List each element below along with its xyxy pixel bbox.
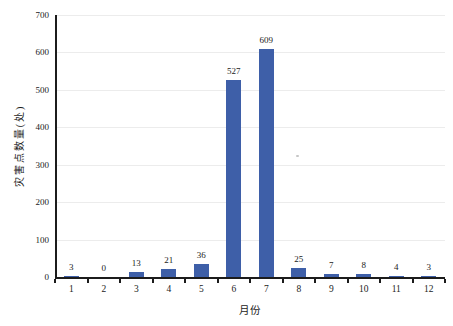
x-tick-mark (379, 279, 381, 283)
x-tick-mark (87, 279, 89, 283)
bar-value-label-month-5: 36 (197, 250, 206, 261)
x-tick-label-month-4: 4 (166, 284, 171, 295)
bar-value-label-month-7: 609 (260, 35, 274, 46)
x-tick-mark (119, 279, 121, 283)
x-tick-mark (249, 279, 251, 283)
y-axis-title: 灾害点数量(处) (11, 105, 26, 188)
bar-value-label-month-6: 527 (227, 66, 241, 77)
gridline-500 (57, 90, 445, 91)
bar-value-label-month-3: 13 (132, 258, 141, 269)
x-tick-mark (282, 279, 284, 283)
bar-month-9 (324, 274, 339, 277)
x-tick-label-month-5: 5 (199, 284, 204, 295)
x-tick-label-month-11: 11 (392, 284, 401, 295)
bar-month-8 (291, 268, 306, 277)
y-tick-label-600: 600 (17, 48, 49, 57)
plot-area (55, 15, 445, 279)
bar-month-7 (259, 49, 274, 277)
x-tick-mark (347, 279, 349, 283)
x-tick-label-month-9: 9 (329, 284, 334, 295)
bar-month-12 (421, 276, 436, 277)
gridline-600 (57, 52, 445, 53)
x-tick-label-month-12: 12 (424, 284, 434, 295)
y-tick-label-200: 200 (17, 198, 49, 207)
bar-value-label-month-9: 7 (329, 260, 334, 271)
bar-value-label-month-12: 3 (427, 262, 432, 273)
bar-month-3 (129, 272, 144, 277)
bar-month-6 (226, 80, 241, 277)
x-tick-label-month-3: 3 (134, 284, 139, 295)
bar-value-label-month-11: 4 (394, 262, 399, 273)
bar-value-label-month-8: 25 (294, 254, 303, 265)
x-tick-mark (54, 279, 56, 283)
bar-chart: 灾害点数量(处) 月份 0100200300400500600700310213… (0, 0, 453, 326)
bar-value-label-month-10: 8 (362, 260, 367, 271)
bar-month-5 (194, 264, 209, 278)
bar-month-1 (64, 276, 79, 277)
x-tick-label-month-1: 1 (69, 284, 74, 295)
bar-value-label-month-4: 21 (164, 255, 173, 266)
x-tick-label-month-10: 10 (359, 284, 369, 295)
y-tick-label-300: 300 (17, 160, 49, 169)
bar-month-4 (161, 269, 176, 277)
x-tick-label-month-6: 6 (231, 284, 236, 295)
y-tick-label-100: 100 (17, 235, 49, 244)
gridline-100 (57, 240, 445, 241)
y-tick-label-700: 700 (17, 11, 49, 20)
x-tick-mark (217, 279, 219, 283)
bar-month-11 (389, 276, 404, 278)
bar-value-label-month-1: 3 (69, 262, 74, 273)
image-artifact-dot (296, 155, 299, 157)
gridline-200 (57, 202, 445, 203)
x-tick-mark (444, 279, 446, 283)
y-tick-label-0: 0 (17, 273, 49, 282)
x-tick-mark (152, 279, 154, 283)
x-tick-label-month-2: 2 (101, 284, 106, 295)
x-tick-label-month-7: 7 (264, 284, 269, 295)
gridline-300 (57, 165, 445, 166)
y-tick-label-500: 500 (17, 85, 49, 94)
bar-month-10 (356, 274, 371, 277)
x-tick-label-month-8: 8 (296, 284, 301, 295)
gridline-700 (57, 15, 445, 16)
x-tick-mark (314, 279, 316, 283)
x-axis-title: 月份 (239, 302, 261, 317)
y-tick-label-400: 400 (17, 123, 49, 132)
gridline-400 (57, 127, 445, 128)
x-tick-mark (412, 279, 414, 283)
x-tick-mark (184, 279, 186, 283)
bar-value-label-month-2: 0 (102, 263, 107, 274)
